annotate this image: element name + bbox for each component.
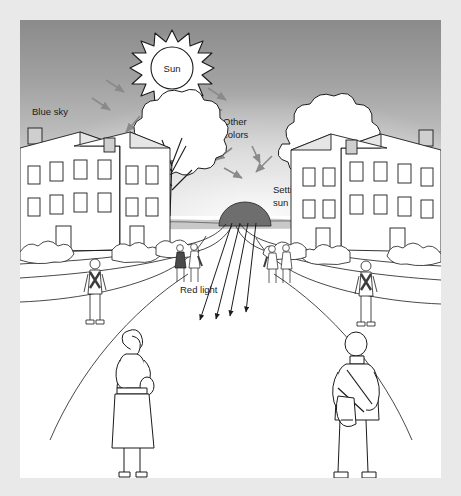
sun-label: Sun xyxy=(164,63,181,74)
figure-frame: Sun Blue sky Other colors xyxy=(0,0,461,496)
blue-sky-label: Blue sky xyxy=(32,106,68,117)
ground xyxy=(20,216,441,478)
red-light-label: Red light xyxy=(180,284,218,295)
buildings-left xyxy=(20,128,170,252)
setting-sun-label-line2: sun xyxy=(273,197,288,208)
illustration-canvas: Sun Blue sky Other colors xyxy=(20,20,441,478)
buildings-right xyxy=(291,130,441,252)
scene-svg: Sun Blue sky Other colors xyxy=(20,20,441,478)
